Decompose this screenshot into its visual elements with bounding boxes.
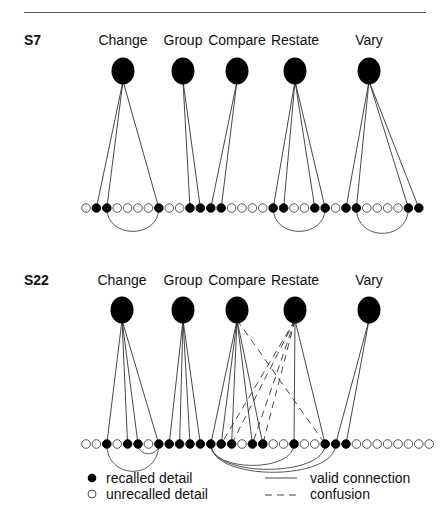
panel-label: S7 xyxy=(24,32,41,48)
unrecalled-detail xyxy=(300,440,309,449)
recalled-detail xyxy=(196,440,205,449)
valid-connection-line xyxy=(346,81,369,208)
valid-connection-line xyxy=(295,81,315,208)
unrecalled-detail xyxy=(227,204,236,213)
recalled-detail xyxy=(342,440,351,449)
unrecalled-detail xyxy=(383,204,392,213)
unrecalled-detail xyxy=(363,440,372,449)
recalled-detail xyxy=(92,204,101,213)
legend-recalled-label: recalled detail xyxy=(106,470,192,486)
unrecalled-detail xyxy=(113,204,122,213)
valid-connection-line xyxy=(294,320,295,444)
panel-label: S22 xyxy=(24,272,49,288)
unrecalled-detail xyxy=(373,440,382,449)
unrecalled-detail xyxy=(134,204,143,213)
unrecalled-detail xyxy=(404,440,413,449)
category-node xyxy=(111,297,134,324)
recalled-detail xyxy=(123,440,132,449)
unrecalled-detail xyxy=(113,440,122,449)
recalled-detail xyxy=(217,440,226,449)
unrecalled-detail xyxy=(279,440,288,449)
unrecalled-detail xyxy=(290,204,299,213)
category-node xyxy=(358,58,381,85)
confusion-line xyxy=(263,320,295,444)
category-node xyxy=(172,58,195,85)
unrecalled-detail xyxy=(82,440,91,449)
recalled-detail xyxy=(186,204,195,213)
valid-connection-line xyxy=(295,320,325,444)
unrecalled-detail xyxy=(352,440,361,449)
category-node xyxy=(226,297,249,324)
valid-connection-line xyxy=(183,320,190,444)
valid-connection-line xyxy=(284,81,295,208)
unrecalled-detail xyxy=(144,440,153,449)
recalled-detail xyxy=(352,204,361,213)
unrecalled-detail xyxy=(123,204,132,213)
unrecalled-detail xyxy=(311,440,320,449)
category-label: Change xyxy=(97,272,146,288)
recalled-detail xyxy=(207,440,216,449)
recalled-detail xyxy=(103,440,112,449)
valid-connection-line xyxy=(183,81,190,208)
recalled-detail xyxy=(290,440,299,449)
recalled-detail xyxy=(165,440,174,449)
unrecalled-detail xyxy=(383,440,392,449)
valid-connection-line xyxy=(356,81,369,208)
category-label: Vary xyxy=(355,32,383,48)
unrecalled-detail xyxy=(165,204,174,213)
unrecalled-detail xyxy=(82,204,91,213)
valid-connection-line xyxy=(107,320,122,444)
recalled-detail xyxy=(321,204,330,213)
unrecalled-detail xyxy=(92,440,101,449)
category-node xyxy=(284,58,307,85)
unrecalled-detail xyxy=(373,204,382,213)
valid-connection-line xyxy=(369,81,408,208)
unrecalled-detail xyxy=(175,204,184,213)
legend-valid-label: valid connection xyxy=(310,470,410,486)
recalled-detail xyxy=(155,204,164,213)
unrecalled-detail xyxy=(394,204,403,213)
category-label: Restate xyxy=(271,272,319,288)
valid-connection-line xyxy=(96,81,123,208)
recalled-detail xyxy=(321,440,330,449)
recalled-detail xyxy=(248,440,257,449)
category-label: Restate xyxy=(271,32,319,48)
legend-unrecalled-icon xyxy=(88,490,96,498)
category-node xyxy=(172,297,195,324)
recalled-detail xyxy=(342,204,351,213)
valid-connection-line xyxy=(336,320,369,444)
valid-connection-line xyxy=(183,81,200,208)
recalled-detail xyxy=(227,440,236,449)
category-node xyxy=(284,297,307,324)
recalled-detail xyxy=(134,440,143,449)
category-node xyxy=(358,297,381,324)
legend-confusion-label: confusion xyxy=(310,486,370,502)
recalled-detail xyxy=(279,204,288,213)
detail-arc xyxy=(211,444,325,469)
unrecalled-detail xyxy=(248,204,257,213)
confusion-line xyxy=(252,320,295,444)
unrecalled-detail xyxy=(300,204,309,213)
recalled-detail xyxy=(404,204,413,213)
unrecalled-detail xyxy=(425,440,434,449)
detail-arc xyxy=(107,444,159,471)
valid-connection-line xyxy=(273,81,295,208)
category-label: Vary xyxy=(355,272,383,288)
category-node xyxy=(112,58,135,85)
unrecalled-detail xyxy=(415,440,424,449)
valid-connection-line xyxy=(295,81,325,208)
unrecalled-detail xyxy=(394,440,403,449)
recalled-detail xyxy=(155,440,164,449)
recalled-detail xyxy=(103,204,112,213)
recalled-detail xyxy=(415,204,424,213)
valid-connection-line xyxy=(369,81,419,208)
recalled-detail xyxy=(207,204,216,213)
valid-connection-line xyxy=(123,81,159,208)
recalled-detail xyxy=(269,204,278,213)
category-label: Compare xyxy=(208,32,266,48)
confusion-line xyxy=(221,320,295,444)
recalled-detail xyxy=(217,204,226,213)
category-label: Compare xyxy=(208,272,266,288)
valid-connection-line xyxy=(107,81,123,208)
valid-connection-line xyxy=(346,320,369,444)
